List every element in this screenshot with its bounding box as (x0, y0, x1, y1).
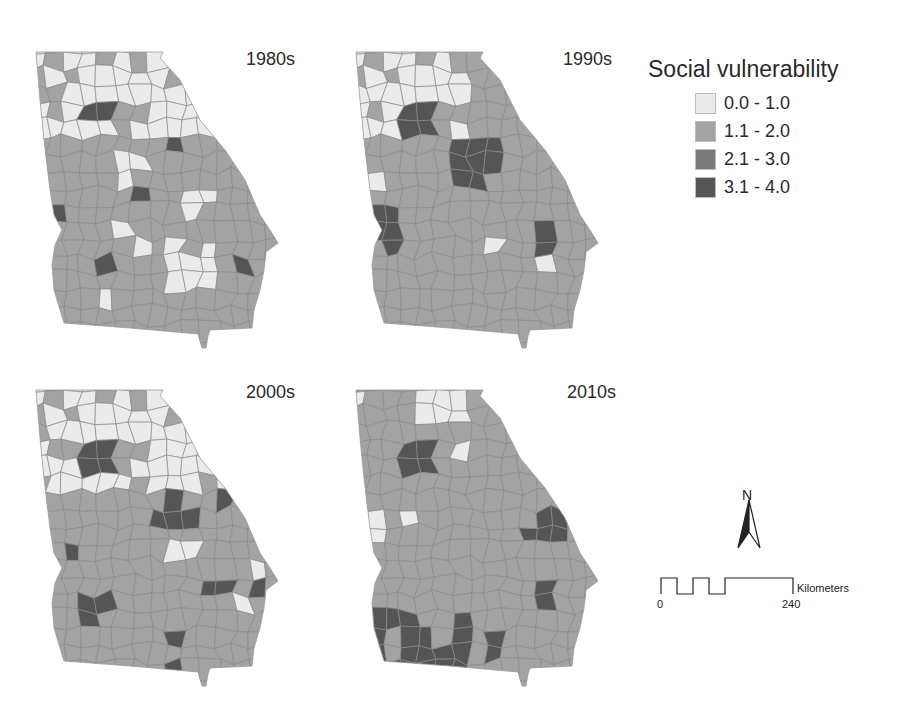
scale-bar-start: 0 (657, 598, 663, 610)
legend-swatch (695, 93, 716, 114)
legend-item: 3.1 - 4.0 (695, 173, 838, 201)
map-label-2000s: 2000s (246, 382, 295, 403)
legend: Social vulnerability 0.0 - 1.0 1.1 - 2.0… (648, 56, 838, 201)
legend-swatch (695, 121, 716, 142)
scale-bar-unit: Kilometers (797, 582, 849, 594)
legend-swatch (695, 149, 716, 170)
legend-item: 1.1 - 2.0 (695, 117, 838, 145)
legend-item: 2.1 - 3.0 (695, 145, 838, 173)
map-label-1980s: 1980s (246, 49, 295, 70)
map-label-2010s: 2010s (567, 382, 616, 403)
north-arrow-icon (732, 488, 766, 556)
legend-label: 0.0 - 1.0 (724, 93, 790, 114)
map-2000s (30, 378, 290, 698)
legend-swatch (695, 177, 716, 198)
georgia-county-map (30, 378, 290, 698)
map-1990s (350, 40, 610, 360)
map-label-1990s: 1990s (563, 49, 612, 70)
legend-title: Social vulnerability (648, 56, 838, 83)
georgia-county-map (350, 378, 610, 698)
georgia-county-map (350, 40, 610, 360)
map-2010s (350, 378, 610, 698)
legend-item: 0.0 - 1.0 (695, 89, 838, 117)
georgia-county-map (30, 40, 290, 360)
scale-bar-end: 240 (782, 598, 800, 610)
scale-bar (660, 576, 800, 596)
legend-label: 1.1 - 2.0 (724, 121, 790, 142)
legend-label: 2.1 - 3.0 (724, 149, 790, 170)
legend-label: 3.1 - 4.0 (724, 177, 790, 198)
map-1980s (30, 40, 290, 360)
